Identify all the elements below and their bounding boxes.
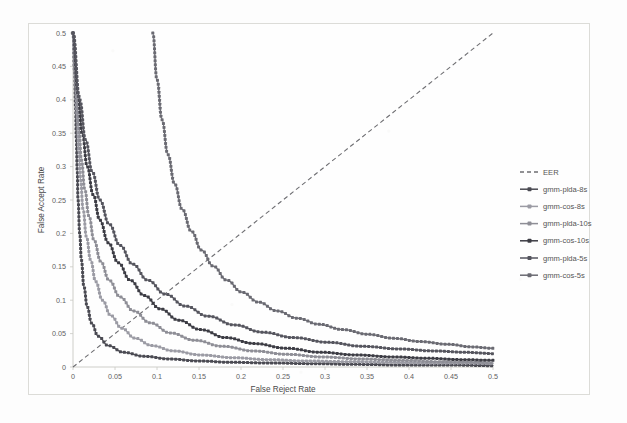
data-point-marker: [74, 51, 77, 54]
data-point-marker: [172, 181, 175, 184]
data-point-marker: [77, 95, 80, 98]
legend-item-gmm-cos-5s[interactable]: gmm-cos-5s: [520, 271, 585, 280]
data-point-marker: [191, 339, 194, 342]
data-point-marker: [207, 330, 210, 333]
legend-label: gmm-plda-8s: [543, 185, 588, 194]
data-point-marker: [222, 321, 225, 324]
legend-item-gmm-cos-8s[interactable]: gmm-cos-8s: [520, 202, 585, 211]
data-point-marker: [170, 349, 173, 352]
data-point-marker: [162, 126, 165, 129]
data-point-marker: [416, 340, 419, 343]
data-point-marker: [475, 346, 478, 349]
data-point-marker: [366, 358, 369, 361]
data-point-marker: [82, 126, 85, 129]
data-point-marker: [112, 346, 115, 349]
data-point-marker: [341, 328, 344, 331]
data-point-marker: [255, 300, 258, 303]
legend-swatch-marker: [528, 239, 532, 243]
data-point-marker: [90, 261, 93, 264]
data-point-marker: [257, 330, 260, 333]
legend-item-gmm-cos-10s[interactable]: gmm-cos-10s: [520, 236, 589, 245]
data-point-marker: [93, 176, 96, 179]
data-point-marker: [125, 301, 128, 304]
legend-item-gmm-plda-8s[interactable]: gmm-plda-8s: [520, 185, 588, 194]
data-point-marker: [97, 288, 100, 291]
data-point-marker: [129, 308, 132, 311]
data-point-marker: [75, 71, 78, 74]
data-point-marker: [166, 293, 169, 296]
data-point-marker: [238, 348, 241, 351]
data-point-marker: [191, 326, 194, 329]
data-point-marker: [282, 362, 285, 365]
data-point-marker: [390, 359, 393, 362]
data-point-marker: [230, 361, 233, 364]
data-point-marker: [131, 279, 134, 282]
data-point-marker: [415, 357, 418, 360]
data-point-marker: [252, 342, 255, 345]
data-point-marker: [97, 335, 100, 338]
data-point-marker: [367, 345, 370, 348]
data-point-marker: [127, 258, 130, 261]
data-point-marker: [154, 67, 157, 70]
data-point-marker: [96, 248, 99, 251]
data-point-marker: [310, 355, 313, 358]
data-point-marker: [112, 251, 115, 254]
data-point-marker: [455, 358, 458, 361]
data-point-marker: [127, 278, 130, 281]
data-point-marker: [242, 361, 245, 364]
data-point-marker: [81, 199, 84, 202]
data-point-marker: [394, 363, 397, 366]
data-point-marker: [334, 356, 337, 359]
data-point-marker: [84, 154, 87, 157]
legend-item-gmm-plda-5s[interactable]: gmm-plda-5s: [520, 254, 588, 263]
data-point-marker: [395, 347, 398, 350]
data-point-marker: [288, 347, 291, 350]
data-point-marker: [76, 167, 79, 170]
data-point-marker: [152, 302, 155, 305]
data-point-marker: [186, 305, 189, 308]
data-point-marker: [129, 334, 132, 337]
legend-item-gmm-plda-10s[interactable]: gmm-plda-10s: [520, 219, 592, 228]
data-point-marker: [357, 360, 360, 363]
data-point-marker: [431, 357, 434, 360]
data-point-marker: [124, 250, 127, 253]
data-point-marker: [204, 314, 207, 317]
data-point-marker: [119, 244, 122, 247]
data-point-marker: [79, 239, 82, 242]
data-point-marker: [466, 361, 469, 364]
data-point-marker: [344, 353, 347, 356]
data-point-marker: [286, 362, 289, 365]
data-point-marker: [72, 32, 75, 35]
data-point-marker: [440, 342, 443, 345]
data-point-marker: [88, 157, 91, 160]
data-point-marker: [89, 258, 92, 261]
data-point-marker: [131, 352, 134, 355]
data-point-marker: [106, 221, 109, 224]
data-point-marker: [195, 327, 198, 330]
data-point-marker: [219, 345, 222, 348]
data-point-marker: [84, 138, 87, 141]
data-point-marker: [174, 184, 177, 187]
legend-item-EER[interactable]: EER: [520, 168, 559, 177]
data-point-marker: [323, 341, 326, 344]
data-point-marker: [226, 322, 229, 325]
data-point-marker: [136, 311, 139, 314]
data-point-marker: [124, 328, 127, 331]
data-point-marker: [320, 351, 323, 354]
data-point-marker: [403, 348, 406, 351]
data-point-marker: [123, 271, 126, 274]
data-point-marker: [95, 188, 98, 191]
data-point-marker: [375, 346, 378, 349]
data-point-marker: [230, 323, 233, 326]
data-point-marker: [152, 322, 155, 325]
legend-label: gmm-cos-8s: [543, 202, 585, 211]
data-point-marker: [290, 362, 293, 365]
data-point-marker: [442, 360, 445, 363]
data-point-marker: [84, 291, 87, 294]
data-point-marker: [80, 191, 83, 194]
data-point-marker: [294, 353, 297, 356]
data-point-marker: [178, 199, 181, 202]
data-point-marker: [82, 211, 85, 214]
data-point-marker: [308, 350, 311, 353]
data-point-marker: [181, 319, 184, 322]
